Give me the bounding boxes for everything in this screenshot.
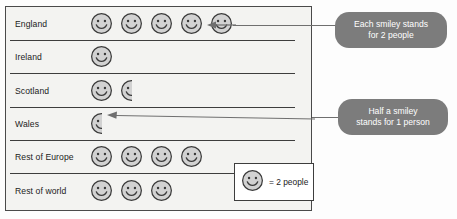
smiley-face-icon [90,12,113,35]
row-icons-rest-of-europe [90,145,203,168]
smiley-face-icon [90,145,113,168]
half-smiley-face-icon [120,79,132,102]
callout-1-arrow-icon [205,18,237,32]
callout-each-smiley: Each smiley stands for 2 people [335,12,447,48]
row-icons-ireland [90,45,113,68]
smiley-face-icon [120,179,143,202]
legend-key-box: = 2 people [234,163,314,201]
legend-key-label: = 2 people [269,177,308,187]
callout-1-line-1: Each smiley stands [354,19,428,31]
smiley-face-icon [120,12,143,35]
pictogram-chart-stage: England Ireland Scotland Wales Rest of E… [0,0,457,219]
smiley-face-icon [180,12,203,35]
callout-2-arrow-icon [104,110,316,124]
smiley-face-icon [90,179,113,202]
row-label-ireland: Ireland [15,52,42,62]
table-row: Ireland [6,40,311,73]
smiley-face-icon [150,12,173,35]
smiley-face-icon [150,179,173,202]
row-label-england: England [15,19,47,29]
callout-2-line-2: stands for 1 person [356,117,430,129]
row-label-rest-of-world: Rest of world [15,186,66,196]
row-icons-scotland [90,79,132,102]
row-label-scotland: Scotland [15,86,49,96]
smiley-face-icon [120,145,143,168]
row-icons-wales [90,112,102,135]
callout-2-leader-line [312,117,340,118]
smiley-face-icon [90,79,113,102]
pictogram-frame: England Ireland Scotland Wales Rest of E… [5,6,312,211]
callout-1-leader-line [233,25,337,26]
half-smiley-face-icon [90,112,102,135]
callout-half-smiley: Half a smiley stands for 1 person [338,99,448,135]
smiley-face-icon [241,169,264,196]
callout-1-line-2: for 2 people [354,30,428,42]
callout-2-line-1: Half a smiley [356,106,430,118]
row-label-rest-of-europe: Rest of Europe [15,152,74,162]
table-row: Scotland [6,74,311,107]
smiley-face-icon [90,45,113,68]
smiley-face-icon [150,145,173,168]
row-label-wales: Wales [15,119,39,129]
smiley-face-icon [180,145,203,168]
row-icons-rest-of-world [90,179,173,202]
